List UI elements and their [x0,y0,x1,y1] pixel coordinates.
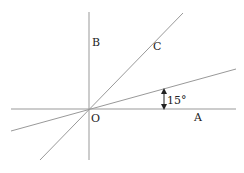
angle-label: 15° [167,94,187,107]
label-A: A [193,111,203,124]
diagram-canvas: B C O A 15° [0,0,244,173]
label-O: O [91,112,100,125]
inclined-line-15deg [11,69,236,131]
label-B: B [92,36,100,49]
line-OC [40,13,183,160]
label-C: C [153,40,161,53]
geometry-figure: B C O A 15° [0,0,244,173]
